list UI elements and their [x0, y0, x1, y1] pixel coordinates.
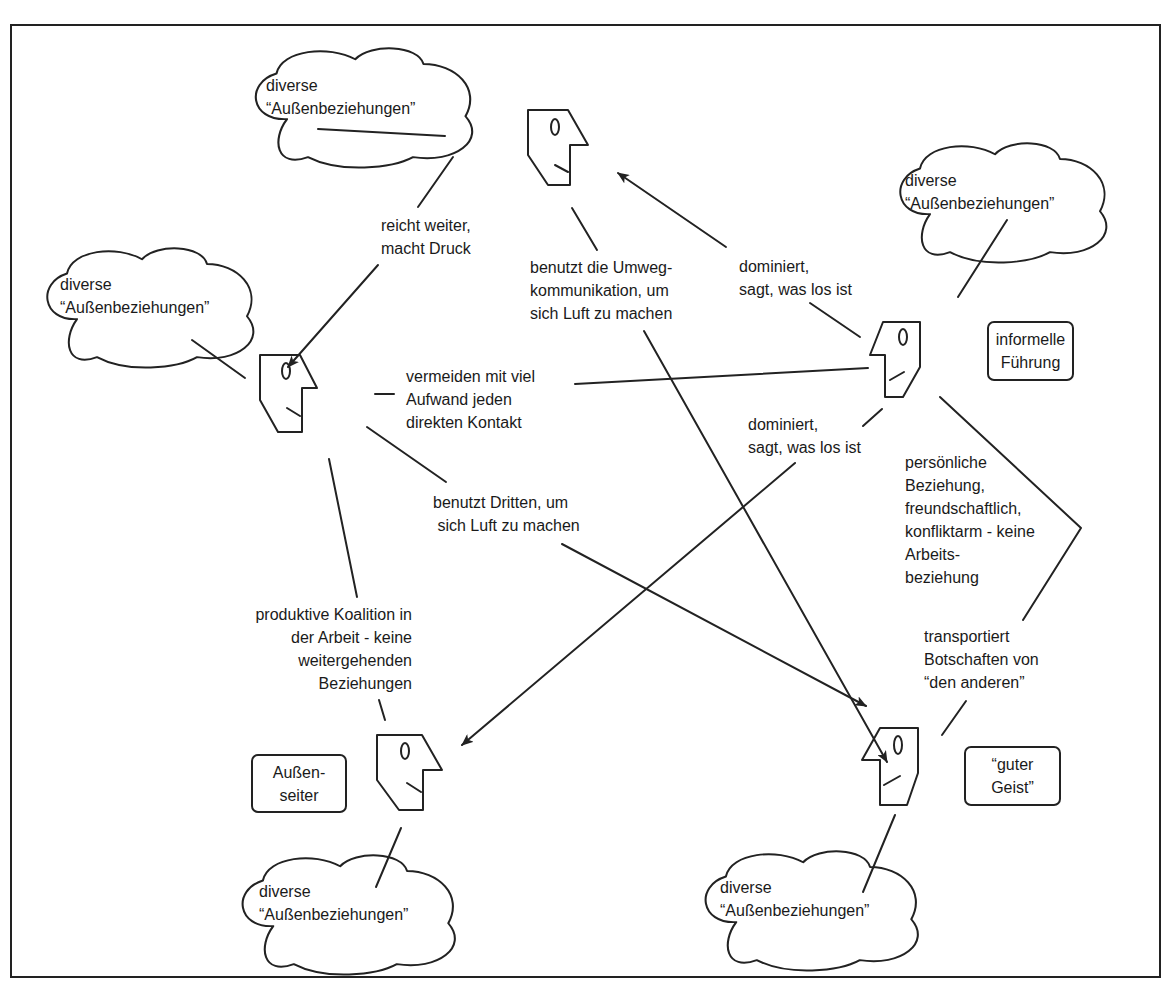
link-right-bottomleft-a: [863, 409, 882, 426]
cloud-top-label: diverse “Außenbeziehungen”: [266, 74, 415, 120]
edge-label-benutzt-dritten: benutzt Dritten, um sich Luft zu machen: [433, 491, 580, 537]
cloud-bottom-right-label: diverse “Außenbeziehungen”: [720, 876, 869, 922]
person-bottom-right-face-icon: [862, 728, 918, 805]
edge-label-reicht-weiter: reicht weiter, macht Druck: [381, 214, 471, 260]
link-top-left-a: [418, 157, 453, 207]
person-right-face-icon: [870, 322, 920, 397]
link-bottomright-transport: [942, 701, 966, 735]
link-left-right-b: [575, 368, 868, 384]
edge-label-produktive-koalition: produktive Koalition in der Arbeit - kei…: [207, 603, 412, 695]
link-right-top-a: [618, 173, 726, 247]
edge-label-umweg-kommunikation: benutzt die Umweg- kommunikation, um sic…: [530, 256, 672, 325]
link-left-bottomright-a: [367, 427, 446, 482]
link-top-cloud: [318, 129, 445, 136]
role-aussenseiter: Außen- seiter: [251, 754, 347, 813]
cloud-left-label: diverse “Außenbeziehungen”: [60, 273, 209, 319]
link-left-cloud: [192, 340, 245, 378]
link-right-top-b: [810, 303, 860, 337]
edge-label-dominiert-top: dominiert, sagt, was los ist: [739, 255, 852, 301]
role-guter-geist: “guter Geist”: [964, 746, 1061, 806]
link-top-bottomright-a: [572, 208, 597, 250]
role-informelle-fuehrung: informelle Führung: [987, 321, 1074, 381]
edge-label-persoenliche-beziehung: persönliche Beziehung, freundschaftlich,…: [905, 451, 1035, 589]
edge-label-dominiert-bottom: dominiert, sagt, was los ist: [748, 413, 861, 459]
link-left-bottomright-b: [562, 544, 866, 706]
edge-label-transportiert: transportiert Botschaften von “den ander…: [924, 625, 1039, 694]
person-bottom-left-face-icon: [377, 735, 442, 810]
link-bottomleft-cloud: [376, 828, 401, 887]
edge-label-vermeiden: vermeiden mit viel Aufwand jeden direkte…: [406, 365, 535, 434]
cloud-bottom-left-label: diverse “Außenbeziehungen”: [259, 880, 408, 926]
link-left-bottomleft-a: [329, 459, 357, 597]
cloud-right-label: diverse “Außenbeziehungen”: [905, 169, 1054, 215]
link-left-bottomleft-b: [379, 700, 385, 720]
person-top-face-icon: [528, 110, 588, 185]
link-top-left-b: [288, 265, 378, 367]
